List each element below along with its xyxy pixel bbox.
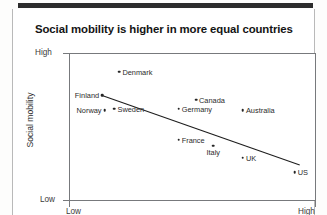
- data-point: [242, 109, 245, 112]
- data-point: [103, 109, 106, 112]
- data-point-label: Sweden: [117, 104, 144, 113]
- data-point: [118, 70, 121, 73]
- data-point: [293, 171, 296, 174]
- x-axis-label-high: High: [298, 207, 315, 215]
- data-point-label: Norway: [77, 106, 102, 115]
- data-point: [113, 107, 116, 110]
- data-point-label: Denmark: [122, 67, 152, 76]
- page-title: Social mobility is higher in more equal …: [35, 23, 325, 35]
- data-point-label: France: [182, 135, 205, 144]
- data-point-label: Italy: [206, 148, 220, 157]
- data-point-label: UK: [246, 153, 256, 162]
- scan-top-bar: [18, 3, 313, 8]
- data-point: [101, 94, 104, 97]
- y-axis-label-low: Low: [40, 195, 55, 204]
- y-axis-title: Social mobility: [25, 74, 35, 166]
- trendline: [70, 54, 317, 202]
- data-point-label: Finland: [75, 91, 99, 100]
- data-point: [177, 139, 180, 142]
- data-point-label: Australia: [246, 106, 275, 115]
- data-point-label: Germany: [182, 104, 212, 113]
- data-point: [195, 99, 198, 102]
- x-axis-label-low: Low: [66, 207, 81, 215]
- data-point: [212, 144, 215, 147]
- data-point-label: US: [298, 168, 308, 177]
- chart-card: Social mobility is higher in more equal …: [12, 9, 315, 215]
- plot-area: DenmarkFinlandNorwaySwedenCanadaGermanyA…: [69, 53, 316, 201]
- y-axis-label-high: High: [35, 48, 52, 57]
- data-point-label: Canada: [199, 95, 225, 104]
- chart-screenshot: Social mobility is higher in more equal …: [0, 0, 327, 215]
- data-point: [177, 107, 180, 110]
- data-point: [242, 156, 245, 159]
- plot-inner: DenmarkFinlandNorwaySwedenCanadaGermanyA…: [70, 54, 315, 200]
